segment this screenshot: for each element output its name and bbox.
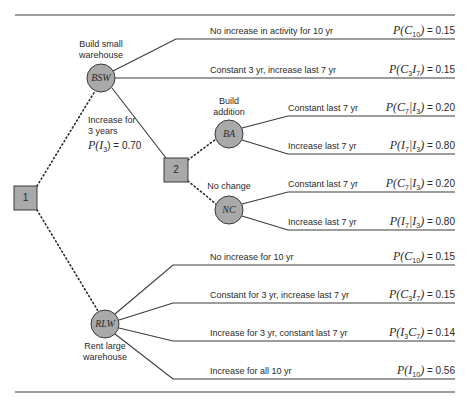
outcome-probability: P(C3I7) = 0.15 xyxy=(389,287,455,302)
rlw-caption-line1: Rent large xyxy=(74,341,136,352)
dotted-1-to-rlw xyxy=(37,210,98,311)
outcome-probability: P(C7|I3) = 0.20 xyxy=(386,176,455,191)
increase-3yr-line1: Increase for xyxy=(88,115,136,126)
branch-ba-constant xyxy=(242,116,455,128)
bsw-caption-line2: warehouse xyxy=(70,50,132,61)
outcome-probability: P(I7|I3) = 0.80 xyxy=(390,214,455,229)
outcome-label: No increase in activity for 10 yr xyxy=(210,26,333,37)
bsw-caption: Build small warehouse xyxy=(70,39,132,61)
rlw-caption-line2: warehouse xyxy=(74,352,136,363)
outcome-label: Increase for 3 yr, constant last 7 yr xyxy=(210,328,348,339)
chance-node-rlw-label: RLW xyxy=(91,318,119,329)
outcome-probability: P(C10) = 0.15 xyxy=(393,249,455,264)
decision-node-2-label: 2 xyxy=(164,164,188,175)
ba-caption-line1: Build xyxy=(205,96,253,107)
decision-node-1-label: 1 xyxy=(14,192,37,203)
outcome-label: Increase last 7 yr xyxy=(288,141,357,152)
ba-caption-line2: addition xyxy=(205,107,253,118)
bsw-caption-line1: Build small xyxy=(70,39,132,50)
chance-node-nc-label: NC xyxy=(215,204,243,215)
ba-caption: Build addition xyxy=(205,96,253,118)
chance-node-bsw-label: BSW xyxy=(87,72,115,83)
outcome-label: Constant 3 yr, increase last 7 yr xyxy=(210,65,336,76)
branch-rlw-constant-3 xyxy=(119,303,455,320)
increase-3yr-line2: 3 years xyxy=(88,126,136,137)
outcome-probability: P(I7|I3) = 0.80 xyxy=(390,138,455,153)
outcome-label: Increase last 7 yr xyxy=(288,217,357,228)
chance-node-ba-label: BA xyxy=(215,128,243,139)
outcome-probability: P(C3I7) = 0.15 xyxy=(389,62,455,77)
outcome-label: Increase for all 10 yr xyxy=(210,366,292,377)
outcome-label: Constant for 3 yr, increase last 7 yr xyxy=(210,290,349,301)
outcome-probability: P(I3C7) = 0.14 xyxy=(389,325,455,340)
outcome-label: No increase for 10 yr xyxy=(210,252,294,263)
increase-3yr-prob: P(I3) = 0.70 xyxy=(88,138,141,153)
outcome-label: Constant last 7 yr xyxy=(288,103,358,114)
branch-nc-constant xyxy=(242,192,455,204)
outcome-probability: P(C10) = 0.15 xyxy=(393,23,455,38)
rlw-caption: Rent large warehouse xyxy=(74,341,136,363)
nc-caption: No change xyxy=(200,181,258,192)
dotted-1-to-bsw xyxy=(37,91,95,186)
increase-3yr-label: Increase for 3 years xyxy=(88,115,136,137)
outcome-probability: P(C7|I3) = 0.20 xyxy=(386,100,455,115)
outcome-label: Constant last 7 yr xyxy=(288,179,358,190)
dotted-2-to-ba xyxy=(188,139,216,160)
outcome-probability: P(I10) = 0.56 xyxy=(397,363,455,378)
